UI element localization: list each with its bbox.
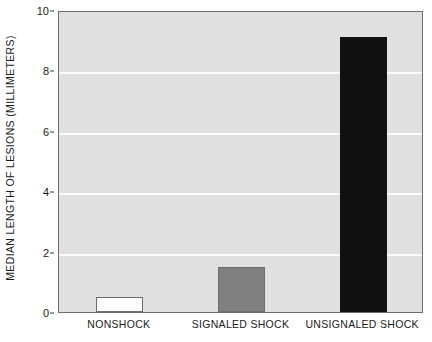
y-tick-mark — [50, 192, 54, 193]
bar-chart: MEDIAN LENGTH OF LESIONS (MILLIMETERS) 0… — [0, 0, 432, 342]
y-tick-label: 4 — [43, 187, 49, 198]
x-axis-label: SIGNALED SHOCK — [192, 318, 290, 330]
plot-area — [58, 11, 423, 313]
x-axis-labels: NONSHOCKSIGNALED SHOCKUNSIGNALED SHOCK — [58, 318, 423, 338]
bar — [218, 267, 265, 312]
y-tick-mark — [50, 131, 54, 132]
y-tick-label: 0 — [43, 308, 49, 319]
x-axis-label: NONSHOCK — [87, 318, 150, 330]
bar — [340, 37, 387, 312]
bar — [96, 297, 143, 312]
y-axis-title: MEDIAN LENGTH OF LESIONS (MILLIMETERS) — [0, 0, 20, 316]
y-tick-mark — [50, 252, 54, 253]
y-tick-mark — [50, 313, 54, 314]
y-tick-label: 2 — [43, 247, 49, 258]
y-axis-title-text: MEDIAN LENGTH OF LESIONS (MILLIMETERS) — [4, 35, 16, 281]
y-tick-mark — [50, 71, 54, 72]
bars-layer — [59, 12, 422, 312]
y-axis-ticks: 0246810 — [22, 0, 54, 314]
y-tick-label: 8 — [43, 66, 49, 77]
y-tick-mark — [50, 11, 54, 12]
x-axis-label: UNSIGNALED SHOCK — [305, 318, 418, 330]
y-tick-label: 6 — [43, 126, 49, 137]
y-tick-label: 10 — [37, 6, 49, 17]
